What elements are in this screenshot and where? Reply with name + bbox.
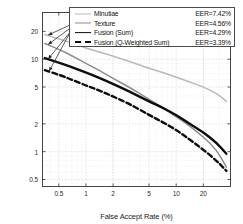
legend-label-texture: Texture — [94, 20, 115, 27]
legend-label-fusion-sum: Fusion (Sum) — [94, 29, 133, 36]
y-tick-label: 0.5 — [6, 176, 38, 183]
legend-line-fusion-qweighted — [74, 38, 92, 47]
x-axis-label: False Accept Rate (%) — [42, 212, 231, 221]
y-tick-label: 10 — [6, 56, 38, 63]
legend-eer-minutiae: EER=7.42% — [195, 10, 231, 17]
legend-item-texture: Texture EER=4.56% — [70, 19, 234, 28]
x-tick-label: 10 — [173, 190, 180, 197]
y-tick-label: 5 — [6, 84, 38, 91]
legend-eer-texture: EER=4.56% — [195, 20, 231, 27]
det-curve-figure: False Reject Rate (%) False Accept Rate … — [0, 0, 243, 224]
x-tick-label: 1 — [84, 190, 88, 197]
legend-item-minutiae: Minutiae EER=7.42% — [70, 9, 234, 18]
legend-item-fusion-qweighted: Fusion (Q-Weighted Sum) EER=3.39% — [70, 38, 234, 47]
x-tick-label: 2 — [111, 190, 115, 197]
y-tick-label: 2 — [6, 120, 38, 127]
legend: Minutiae EER=7.42% Texture EER=4.56% Fus… — [69, 7, 235, 47]
legend-label-minutiae: Minutiae — [94, 10, 119, 17]
y-tick-label: 20 — [6, 28, 38, 35]
legend-eer-fusion-sum: EER=4.29% — [195, 29, 231, 36]
legend-line-fusion-sum — [74, 28, 92, 37]
x-tick-label: 20 — [200, 190, 207, 197]
legend-item-fusion-sum: Fusion (Sum) EER=4.29% — [70, 28, 234, 37]
legend-label-fusion-qweighted: Fusion (Q-Weighted Sum) — [94, 39, 169, 46]
x-tick-label: 5 — [147, 190, 151, 197]
legend-line-texture — [74, 19, 92, 28]
legend-line-minutiae — [74, 9, 92, 18]
legend-eer-fusion-qweighted: EER=3.39% — [195, 39, 231, 46]
x-tick-label: 0.5 — [54, 190, 63, 197]
y-tick-label: 1 — [6, 148, 38, 155]
